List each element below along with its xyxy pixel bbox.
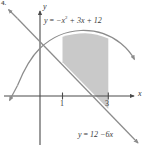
parabola-eq-equals: = — [50, 16, 55, 25]
figure-container: 4. y x y = −x2 + 3x + 12 y = 12 −6x 1 3 — [0, 0, 148, 149]
parabola-equation-label: y = −x2 + 3x + 12 — [44, 17, 102, 25]
shaded-region — [63, 33, 109, 109]
x-tick-label-1: 1 — [60, 100, 64, 108]
y-axis-label: y — [43, 3, 47, 11]
line-eq-equals: = — [84, 130, 89, 139]
line-equation-label: y = 12 −6x — [78, 131, 113, 139]
x-axis-label: x — [138, 90, 142, 98]
line-curve — [9, 10, 139, 144]
parabola-eq-rhs-a: −x — [56, 16, 65, 25]
problem-number: 4. — [1, 0, 6, 7]
line-eq-lhs: y — [78, 130, 82, 139]
parabola-eq-rhs-b: + 3x + 12 — [70, 16, 102, 25]
x-axis — [4, 93, 134, 100]
parabola-eq-lhs: y — [44, 16, 48, 25]
x-tick-label-3: 3 — [105, 100, 109, 108]
parabola-eq-exponent: 2 — [65, 15, 67, 20]
line-eq-rhs: 12 −6x — [90, 130, 113, 139]
